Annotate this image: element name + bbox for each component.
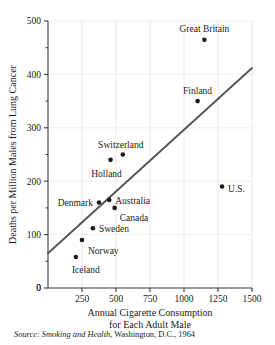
source-work-title: Smoking and Health [42, 330, 110, 339]
data-point-switzerland[interactable] [121, 152, 126, 157]
data-point-label-canada: Canada [120, 213, 149, 223]
data-point-label-denmark: Denmark [58, 198, 94, 208]
y-tick-label: 200 [27, 177, 42, 187]
scatter-plot-figure: 01002003004005002505007501000125015000Ic… [0, 0, 275, 345]
source-note: Source: Smoking and Health, Washington, … [14, 330, 269, 340]
data-point-label-norway: Norway [88, 246, 119, 256]
data-point-label-finland: Finland [183, 86, 212, 96]
data-point-great-britain[interactable] [202, 37, 207, 42]
data-point-sweden[interactable] [91, 226, 96, 231]
data-point-label-sweden: Sweden [99, 224, 129, 234]
x-tick-label: 1500 [243, 294, 262, 304]
data-point-label-switzerland: Switzerland [98, 140, 144, 150]
x-tick-label: 1250 [209, 294, 228, 304]
chart-canvas: 01002003004005002505007501000125015000Ic… [0, 0, 275, 345]
y-tick-label: 400 [27, 70, 42, 80]
x-axis-title-line1: Annual Cigarette Consumption [88, 307, 213, 318]
x-tick-label: 750 [143, 294, 158, 304]
y-tick-label: 300 [27, 123, 42, 133]
data-point-finland[interactable] [195, 99, 200, 104]
data-point-label-iceland: Iceland [72, 265, 100, 275]
data-point-label-u-s: U.S. [228, 184, 245, 194]
data-point-label-holland: Holland [91, 169, 122, 179]
data-point-norway[interactable] [80, 238, 85, 243]
data-point-u-s[interactable] [220, 184, 225, 189]
data-point-label-australia: Australia [115, 196, 151, 206]
data-point-denmark[interactable] [97, 200, 102, 205]
x-tick-label: 500 [109, 294, 124, 304]
x-axis-title-line2: for Each Adult Male [109, 319, 191, 330]
data-point-iceland[interactable] [74, 255, 79, 260]
source-prefix: Source: [14, 330, 40, 339]
data-point-australia[interactable] [107, 198, 112, 203]
data-point-label-great-britain: Great Britain [179, 24, 229, 34]
x-tick-label: 1000 [175, 294, 194, 304]
y-axis-title: Deaths per Million Males from Lung Cance… [7, 64, 18, 244]
y-tick-label: 100 [27, 230, 42, 240]
data-point-holland[interactable] [108, 158, 113, 163]
data-point-canada[interactable] [112, 206, 117, 211]
y-tick-label: 500 [27, 16, 42, 26]
source-rest: , Washington, D.C., 1964 [110, 330, 195, 339]
x-tick-label: 250 [75, 294, 90, 304]
x-origin-label: 0 [36, 283, 41, 293]
